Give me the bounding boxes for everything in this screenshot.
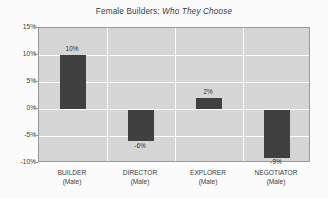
- x-axis-category-name: DIRECTOR: [106, 168, 174, 177]
- bar[interactable]: [128, 109, 154, 141]
- bar-value-label: 10%: [38, 45, 106, 52]
- bar-value-label: -6%: [106, 142, 174, 149]
- bar-value-label: 2%: [174, 88, 242, 95]
- chart-title-italic: Who They Choose: [162, 7, 232, 16]
- x-axis-category-subtitle: (Male): [106, 177, 174, 186]
- x-axis-category-builder: BUILDER(Male): [38, 168, 106, 186]
- bar[interactable]: [264, 109, 290, 158]
- x-axis-category-explorer: EXPLORER(Male): [174, 168, 242, 186]
- bar[interactable]: [196, 98, 222, 109]
- x-axis-category-negotiator: NEGOTIATOR(Male): [242, 168, 310, 186]
- x-axis-category-subtitle: (Male): [174, 177, 242, 186]
- bar-chart: Female Builders: Who They Choose 15%10%5…: [0, 0, 328, 198]
- y-axis-tick-mark: [34, 162, 38, 163]
- y-axis-tick-label: 5%: [6, 77, 36, 84]
- chart-title-plain: Female Builders:: [96, 7, 160, 16]
- x-axis-category-name: EXPLORER: [174, 168, 242, 177]
- x-axis-category-subtitle: (Male): [38, 177, 106, 186]
- bar-value-label: -9%: [242, 158, 310, 165]
- x-axis-category-name: BUILDER: [38, 168, 106, 177]
- y-axis-tick-label: -5%: [6, 131, 36, 138]
- bar[interactable]: [60, 55, 86, 109]
- category-separator: [243, 28, 244, 161]
- y-axis-tick-label: 0%: [6, 104, 36, 111]
- x-axis-category-director: DIRECTOR(Male): [106, 168, 174, 186]
- chart-title: Female Builders: Who They Choose: [0, 7, 328, 16]
- zero-baseline: [39, 109, 309, 110]
- y-axis-tick-label: 15%: [6, 23, 36, 30]
- y-axis-tick-label: 10%: [6, 50, 36, 57]
- x-axis-category-name: NEGOTIATOR: [242, 168, 310, 177]
- y-axis-tick-label: -10%: [6, 158, 36, 165]
- x-axis-category-subtitle: (Male): [242, 177, 310, 186]
